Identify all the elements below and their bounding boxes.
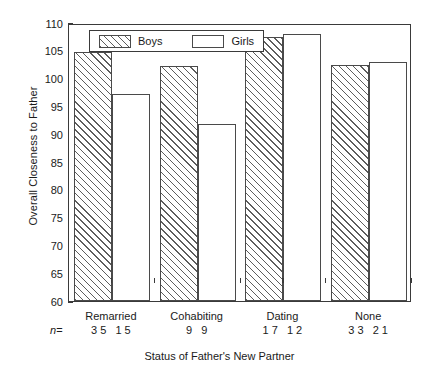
x-axis-title: Status of Father's New Partner [0,350,439,362]
plot-area: Boys Girls [68,24,411,302]
y-tick-label: 95 [51,101,68,112]
x-tick [282,278,283,283]
n-row-label: n= [50,324,63,336]
y-axis-title: Overall Closeness to Father [27,36,39,276]
y-tick-label: 110 [45,18,68,29]
legend-label-boys: Boys [138,35,162,47]
x-group-none: None33 21 [308,310,428,336]
y-tick-label: 60 [51,296,68,307]
x-tick [325,278,326,283]
bar-cohabiting-boys [160,66,198,301]
y-tick-label: 90 [51,129,68,140]
y-tick-label: 85 [51,157,68,168]
x-tick [154,278,155,283]
legend-swatch-boys [99,35,131,48]
legend-item-girls: Girls [192,35,254,48]
x-tick [111,278,112,283]
bar-dating-boys [245,37,283,301]
x-group-n-values: 33 21 [308,324,428,336]
chart-legend: Boys Girls [89,30,264,52]
bar-none-girls [369,62,407,301]
x-tick [197,278,198,283]
bars-layer [69,25,410,301]
y-tick-label: 75 [51,213,68,224]
x-tick [411,278,412,283]
y-tick-label: 70 [51,240,68,251]
bar-remarried-girls [112,94,150,301]
x-tick [368,278,369,283]
bar-none-boys [331,65,369,301]
bar-cohabiting-girls [198,124,236,301]
y-tick-label: 105 [45,46,68,57]
bar-remarried-boys [74,52,112,301]
y-tick-label: 80 [51,185,68,196]
legend-swatch-girls [192,35,224,48]
x-tick [240,278,241,283]
legend-label-girls: Girls [231,35,254,47]
y-tick-label: 65 [51,268,68,279]
n-equals: = [56,324,62,336]
x-tick [68,278,69,283]
legend-item-boys: Boys [99,35,162,48]
bar-dating-girls [283,34,321,301]
y-tick-label: 100 [45,74,68,85]
bar-chart: Overall Closeness to Father 606570758085… [0,0,439,372]
x-group-label: None [308,310,428,322]
